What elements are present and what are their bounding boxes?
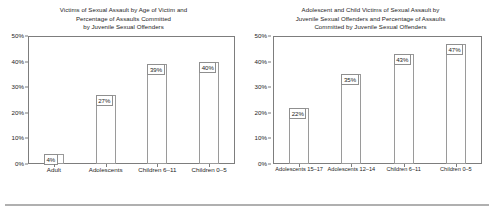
y-tick-mark: [268, 138, 271, 139]
x-axis-left: AdultAdolescentsChildren 6–11Children 0–…: [28, 166, 235, 173]
y-tick-label: 10%: [12, 135, 24, 141]
chart-title-right: Adolescent and Child Victims of Sexual A…: [247, 0, 494, 26]
x-axis-right: Adolescents 15–17Adolescents 12–14Childr…: [273, 166, 482, 173]
y-tick-label: 30%: [12, 84, 24, 90]
y-tick-mark: [268, 87, 271, 88]
plot-wrap-right: 50%40%30%20%10%0% 22%35%43%47% Adolescen…: [247, 26, 494, 200]
x-tick-label: Adolescents 15–17: [273, 166, 325, 173]
charts-row: Victims of Sexual Assault by Age of Vict…: [0, 0, 494, 200]
y-tick-mark: [268, 164, 271, 165]
footer-divider: [5, 204, 489, 206]
x-tick-label: Children 0–5: [183, 166, 235, 173]
y-tick-label: 40%: [12, 58, 24, 64]
plot-wrap-left: 50%40%30%20%10%0% 4%27%39%40% AdultAdole…: [0, 26, 247, 200]
x-tick-label: Adolescents 12–14: [325, 166, 377, 173]
chart-title-left-line-1: Victims of Sexual Assault by Age of Vict…: [9, 6, 238, 15]
plot-area-right: [273, 36, 482, 164]
y-axis-right: 50%40%30%20%10%0%: [245, 36, 271, 164]
x-tick-label: Adult: [28, 166, 80, 173]
y-tick-mark: [268, 61, 271, 62]
y-tick-label: 30%: [255, 84, 267, 90]
chart-title-right-line-2: Juvenile Sexual Offenders and Percentage…: [256, 15, 485, 24]
y-tick-label: 0%: [258, 161, 267, 167]
y-tick-label: 50%: [12, 33, 24, 39]
plot-area-left: [28, 36, 235, 164]
y-tick-mark: [268, 36, 271, 37]
y-axis-left: 50%40%30%20%10%0%: [0, 36, 28, 164]
figure-container: Victims of Sexual Assault by Age of Vict…: [0, 0, 494, 215]
chart-title-right-line-1: Adolescent and Child Victims of Sexual A…: [256, 6, 485, 15]
y-tick-label: 0%: [15, 161, 24, 167]
x-tick-label: Children 6–11: [132, 166, 184, 173]
y-tick-label: 50%: [255, 33, 267, 39]
x-tick-label: Adolescents: [80, 166, 132, 173]
y-tick-mark: [268, 112, 271, 113]
y-tick-label: 10%: [255, 135, 267, 141]
y-tick-label: 20%: [255, 110, 267, 116]
x-tick-label: Children 6–11: [378, 166, 430, 173]
y-tick-label: 40%: [255, 58, 267, 64]
y-tick-label: 20%: [12, 110, 24, 116]
chart-panel-left: Victims of Sexual Assault by Age of Vict…: [0, 0, 247, 200]
chart-title-left-line-2: Percentage of Assaults Committed: [9, 15, 238, 24]
x-tick-label: Children 0–5: [430, 166, 482, 173]
chart-title-left: Victims of Sexual Assault by Age of Vict…: [0, 0, 247, 26]
chart-panel-right: Adolescent and Child Victims of Sexual A…: [247, 0, 494, 200]
